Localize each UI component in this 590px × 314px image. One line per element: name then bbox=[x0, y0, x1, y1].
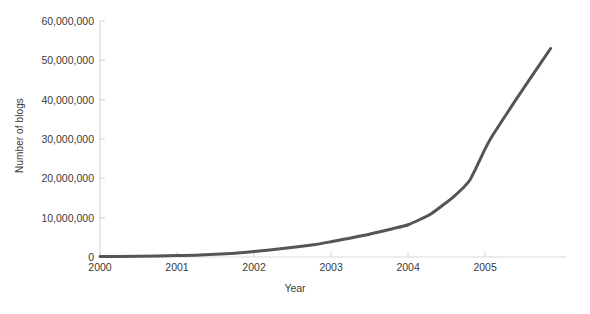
x-axis-title: Year bbox=[0, 282, 590, 294]
plot-area bbox=[0, 0, 590, 314]
series-line-blogs bbox=[100, 49, 551, 257]
y-axis-tick-marks bbox=[100, 21, 105, 257]
blogs-growth-line-chart: Number of blogs 010,000,00020,000,00030,… bbox=[0, 0, 590, 314]
